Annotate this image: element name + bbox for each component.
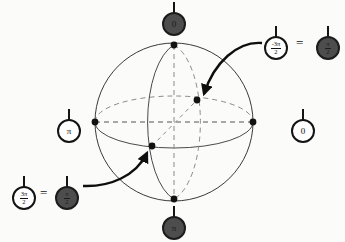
marker-disc: π (162, 216, 186, 240)
marker-disc: π 2 (316, 36, 340, 60)
arrow-to-front-point (83, 153, 147, 186)
marker-disc: 0 (291, 119, 315, 143)
marker-label: π (172, 224, 177, 233)
fraction: 3π 2 (20, 191, 29, 205)
marker-disc: -3π 2 (264, 36, 288, 60)
fraction: π 2 (325, 41, 330, 55)
equals-sign-upper: = (296, 35, 303, 51)
marker-right-zero[interactable]: 0 (291, 109, 315, 143)
fraction-denominator: 2 (21, 199, 26, 206)
marker-label: 0 (301, 127, 306, 136)
arrow-to-back-point (204, 43, 262, 94)
marker-disc: π (57, 119, 81, 143)
marker-label: π (67, 127, 72, 136)
equals-sign-lower: = (40, 185, 47, 201)
fraction: -3π 2 (271, 41, 282, 55)
marker-left-pi[interactable]: π (57, 109, 81, 143)
marker-lower-pair-left[interactable]: 3π 2 (12, 176, 36, 210)
marker-disc: 3π 2 (12, 186, 36, 210)
marker-disc: π 2 (55, 186, 79, 210)
diagram-canvas: 0 π π 0 -3π 2 = (0, 0, 345, 242)
marker-bottom-pi[interactable]: π (162, 206, 186, 240)
fraction-denominator: 2 (64, 199, 69, 206)
marker-upper-pair-left[interactable]: -3π 2 (264, 26, 288, 60)
fraction-denominator: 2 (273, 49, 278, 56)
fraction: π 2 (64, 191, 69, 205)
marker-top-zero[interactable]: 0 (162, 2, 186, 36)
marker-label: 0 (172, 20, 177, 29)
marker-disc: 0 (162, 12, 186, 36)
marker-lower-pair-right[interactable]: π 2 (55, 176, 79, 210)
marker-upper-pair-right[interactable]: π 2 (316, 26, 340, 60)
fraction-denominator: 2 (325, 49, 330, 56)
